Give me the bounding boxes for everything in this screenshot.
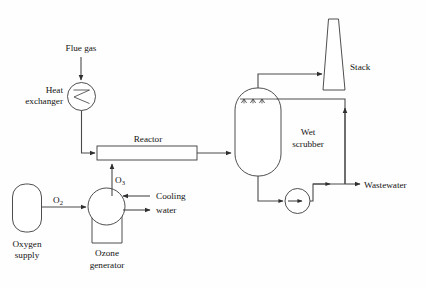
- oxygen-stream-label: O2: [53, 195, 63, 206]
- process-flow-diagram: Flue gas Heat exchanger Reactor Oxygen s…: [0, 0, 426, 287]
- scrubber-to-pump-line: [258, 176, 283, 201]
- oxygen-supply-label-line1: Oxygen: [12, 239, 41, 249]
- reactor-label: Reactor: [134, 134, 163, 144]
- cooling-water-label-line1: Cooling: [156, 191, 186, 201]
- ozone-stream-subscript: 3: [122, 179, 126, 186]
- ozone-generator-symbol: [88, 188, 125, 225]
- stack-symbol: [323, 19, 345, 90]
- pfd-canvas: Flue gas Heat exchanger Reactor Oxygen s…: [0, 0, 426, 287]
- wet-scrubber-label-line1: Wet: [301, 127, 316, 137]
- wastewater-label: Wastewater: [364, 180, 407, 190]
- wet-scrubber-symbol: [235, 88, 281, 176]
- ozone-stream-label: O3: [115, 175, 126, 186]
- ozone-generator-label-line2: generator: [90, 260, 125, 270]
- heat-exchanger-symbol: [68, 83, 96, 111]
- heat-exchanger-to-reactor-line: [82, 111, 96, 154]
- heat-exchanger-label-line2: exchanger: [25, 96, 63, 106]
- wet-scrubber-label-line2: scrubber: [292, 139, 324, 149]
- pump-discharge-line: [310, 184, 345, 201]
- cooling-water-label-line2: water: [156, 205, 176, 215]
- oxygen-supply-symbol: [13, 184, 42, 232]
- ozone-generator-label-line1: Ozone: [95, 248, 119, 258]
- heat-exchanger-label-line1: Heat: [46, 85, 64, 95]
- oxygen-stream-subscript: 2: [60, 199, 63, 206]
- oxygen-supply-label-line2: supply: [15, 250, 40, 260]
- reactor-symbol: [97, 146, 197, 160]
- flue-gas-label: Flue gas: [66, 43, 97, 53]
- stack-label: Stack: [350, 62, 371, 72]
- scrubber-to-stack-line: [258, 74, 322, 88]
